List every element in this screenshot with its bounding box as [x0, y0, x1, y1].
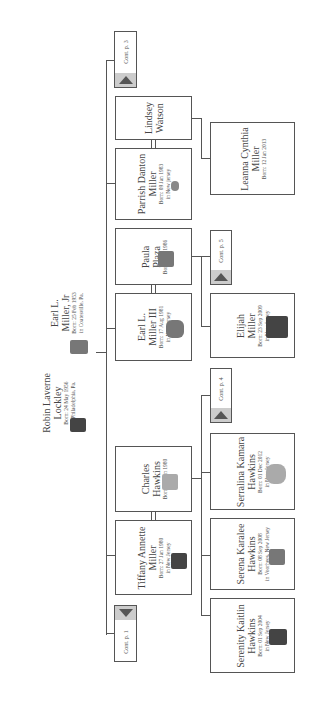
photo-icon [171, 181, 179, 191]
person-name: Earl L. [136, 306, 147, 348]
continuation-label: Cont. p. 3 [123, 40, 129, 64]
person-name: Paula [139, 239, 150, 274]
birth-date: Born: 17 Aug 1981 [158, 306, 165, 348]
person-name: Hawkins [246, 524, 257, 585]
grandchild-box-serena[interactable]: Serena Karalee Hawkins Born: 08 Sep 2008… [210, 518, 295, 590]
person-name: Watson [154, 102, 165, 134]
person-name: Elijah [235, 305, 246, 346]
grandchild-box-elijah[interactable]: Elijah Miller Born: 23 Sep 2009 in New J… [210, 293, 295, 358]
person-name: Miller III [147, 306, 158, 348]
connector [192, 118, 201, 119]
photo-icon [162, 474, 178, 490]
person-name: Hawkins [246, 604, 257, 668]
photo-icon [70, 340, 88, 354]
birth-place: in Coatesville, Pa. [78, 292, 85, 333]
connector [201, 256, 202, 326]
parents-connector [96, 352, 107, 353]
photo-icon [269, 549, 285, 565]
person-name: Tiffany Annette [136, 526, 147, 589]
person-name: Miller [249, 127, 260, 191]
connector [201, 158, 210, 159]
person-name: Charles [139, 459, 150, 500]
arrow-up-icon[interactable] [211, 408, 231, 422]
arrow-up-icon[interactable] [115, 73, 136, 87]
person-name: Miller [246, 305, 257, 346]
continuation-earl-iii[interactable]: Cont. p. 5 [210, 230, 232, 285]
continuation-label: Cont. p. 1 [123, 630, 129, 654]
birth-date: Born: 12 Jan 2013 [260, 127, 267, 191]
photo-icon [158, 251, 174, 267]
spouse-box-lindsey[interactable]: Lindsey Watson [115, 96, 192, 140]
child-box-parrish[interactable]: Parrish Danton Miller Born: 09 Jan 1983 … [115, 148, 192, 220]
photo-icon [166, 320, 184, 338]
continuation-tiffany[interactable]: Cont. p. 4 [210, 368, 232, 423]
parent-earl-miller-jr[interactable]: Earl L. Miller, Jr Born: 25 Feb 1953 in … [38, 270, 96, 355]
person-name: Miller [147, 154, 158, 214]
person-name: Lindsey [143, 102, 154, 134]
birth-date: Born: 09 Jan 1983 [158, 154, 165, 214]
spouse-box-charles[interactable]: Charles Hawkins Born: 11 Jun 1980 [115, 446, 192, 512]
connector [192, 478, 201, 479]
person-name: Hawkins [246, 436, 257, 506]
birth-date: Born: 24 May 1956 [63, 373, 70, 433]
birth-date: Born: 23 Sep 2009 [257, 305, 264, 346]
birth-date: Born: 08 Sep 2008 [257, 524, 264, 585]
connector [106, 555, 115, 556]
person-name: Miller, Jr [60, 292, 71, 333]
person-name: Leanna Cynthia [238, 127, 249, 191]
parent-robin-lockley[interactable]: Robin Laverne Lockley Born: 24 May 1956 … [30, 360, 88, 445]
connector [106, 328, 115, 329]
grandchild-box-serralina[interactable]: Serralina Kamara Hawkins Born: 01 Dec 20… [210, 433, 295, 510]
person-name: Robin Laverne [41, 373, 52, 433]
child-box-tiffany[interactable]: Tiffany Annette Miller Born: 27 Jan 1980… [115, 520, 192, 595]
connector [192, 256, 201, 257]
continuation-label: Cont. p. 5 [218, 239, 224, 263]
marriage-link [151, 140, 156, 148]
continuation-top[interactable]: Cont. p. 3 [114, 31, 137, 88]
arrow-down-icon[interactable] [115, 606, 136, 620]
continuation-bottom[interactable]: Cont. p. 1 [114, 605, 137, 662]
person-name: Earl L. [49, 292, 60, 333]
birth-date: Born: 01 Sep 2004 [257, 604, 264, 668]
child-box-earl-iii[interactable]: Earl L. Miller III Born: 17 Aug 1981 in … [115, 293, 192, 361]
connector [106, 183, 115, 184]
birth-date: Born: 27 Jan 1980 [158, 526, 165, 589]
marriage-link [151, 285, 156, 293]
person-name: Miller [147, 526, 158, 589]
grandchild-box-serenity[interactable]: Serenity Kaitlin Hawkins Born: 01 Sep 20… [210, 598, 295, 673]
marriage-link [151, 512, 156, 520]
person-name: Serenity Kaitlin [235, 604, 246, 668]
person-name: Serena Karalee [235, 524, 246, 585]
photo-icon [269, 629, 287, 645]
trunk-line [106, 60, 107, 635]
birth-date: Born: 25 Feb 1953 [71, 292, 78, 333]
connector [201, 395, 202, 615]
photo-icon [171, 553, 187, 569]
person-name: Parrish Danton [136, 154, 147, 214]
person-name: Serralina Kamara [235, 436, 246, 506]
arrow-up-icon[interactable] [211, 270, 231, 284]
grandchild-box-leanna[interactable]: Leanna Cynthia Miller Born: 12 Jan 2013 [210, 122, 295, 195]
photo-icon [266, 464, 286, 484]
photo-icon [266, 316, 288, 338]
connector [201, 118, 202, 158]
person-name: Lockley [52, 373, 63, 433]
spouse-box-paula[interactable]: Paula Plaza Born: Apr 1986 [115, 228, 192, 285]
person-name: Hawkins [150, 459, 161, 500]
birth-date: Born: 01 Dec 2012 [257, 436, 264, 506]
continuation-label: Cont. p. 4 [218, 377, 224, 401]
photo-icon [70, 418, 86, 432]
